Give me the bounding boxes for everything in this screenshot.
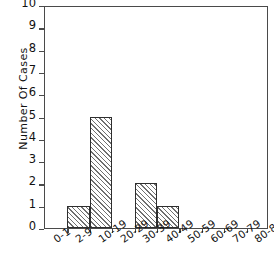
y-tick-0: 0 xyxy=(0,229,44,230)
y-tick-3: 3 xyxy=(0,162,44,163)
y-tick-10: 10 xyxy=(0,6,44,7)
y-tick-1: 1 xyxy=(0,207,44,208)
y-tick-8: 8 xyxy=(0,51,44,52)
y-tick-label: 10 xyxy=(21,0,36,10)
y-tick-label: 9 xyxy=(29,20,36,32)
y-tick-label: 7 xyxy=(29,65,36,77)
bar-10-19 xyxy=(90,117,112,229)
y-tick-6: 6 xyxy=(0,95,44,96)
y-axis-title: Number Of Cases xyxy=(17,24,30,174)
y-tick-9: 9 xyxy=(0,28,44,29)
y-tick-5: 5 xyxy=(0,118,44,119)
y-tick-label: 0 xyxy=(29,221,36,233)
y-tick-label: 5 xyxy=(29,110,36,122)
histogram-figure: Number Of Cases 012345678910 0-12-910-19… xyxy=(0,0,274,270)
y-tick-label: 1 xyxy=(29,199,36,211)
y-tick-mark xyxy=(39,229,44,230)
y-tick-label: 8 xyxy=(29,43,36,55)
y-tick-7: 7 xyxy=(0,73,44,74)
plot-area xyxy=(44,6,268,229)
y-tick-4: 4 xyxy=(0,140,44,141)
y-tick-label: 4 xyxy=(29,132,36,144)
y-tick-label: 3 xyxy=(29,154,36,166)
y-tick-label: 2 xyxy=(29,176,36,188)
y-tick-2: 2 xyxy=(0,184,44,185)
y-tick-label: 6 xyxy=(29,87,36,99)
